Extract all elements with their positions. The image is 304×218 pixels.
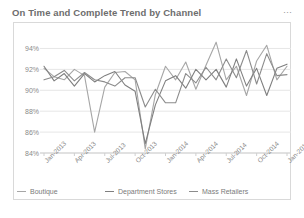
chart-legend: BoutiqueDepartment StoresMass Retailers [13,184,291,198]
y-axis-tick-label: 92% [25,66,39,73]
series-line [44,59,287,144]
page-title: On Time and Complete Trend by Channel [12,7,201,18]
y-axis-tick-label: 94% [25,45,39,52]
card-bottom-border [13,199,291,200]
y-axis-tick-label: 86% [25,129,39,136]
legend-label: Mass Retailers [202,188,248,195]
legend-item[interactable]: Boutique [17,188,58,195]
ellipsis-icon[interactable]: ⋯ [283,10,292,16]
y-axis-tick-label: 88% [25,108,39,115]
line-chart: 84%86%88%90%92%94% Jan-2013Apr-2013Jul-2… [13,22,291,200]
legend-label: Department Stores [118,188,177,195]
series-line [44,42,287,149]
legend-item[interactable]: Mass Retailers [189,188,248,195]
y-axis-tick-label: 84% [25,150,39,157]
legend-swatch-icon [105,191,114,192]
y-axis-labels: 84%86%88%90%92%94% [13,22,39,200]
chart-card: On Time and Complete Trend by Channel ⋯ … [0,0,304,218]
legend-item[interactable]: Department Stores [105,188,177,195]
legend-swatch-icon [17,191,26,192]
legend-swatch-icon [189,191,198,192]
legend-label: Boutique [30,188,58,195]
y-axis-tick-label: 90% [25,87,39,94]
